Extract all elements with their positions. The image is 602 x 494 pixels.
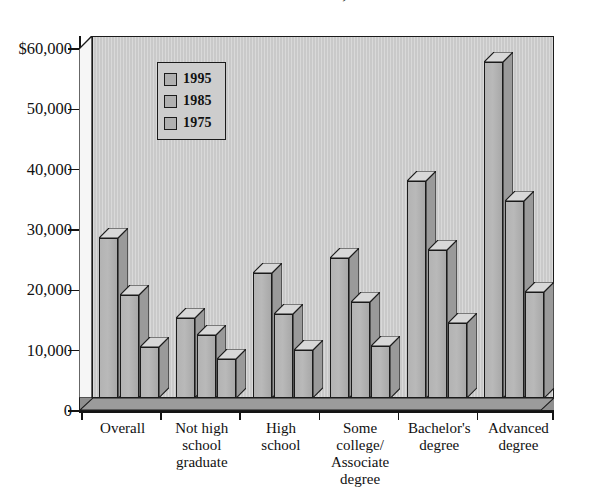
bar-front-face <box>294 350 313 398</box>
bar-front-face <box>253 273 272 398</box>
x-axis-label: Somecollege/Associatedegree <box>321 420 400 488</box>
x-axis-label-line: Advanced <box>479 420 558 437</box>
legend-swatch-1985 <box>164 95 177 108</box>
x-axis-label: Bachelor'sdegree <box>400 420 479 454</box>
bar-front-face <box>176 318 195 398</box>
bar-1995 <box>484 62 503 398</box>
y-axis-label: 10,000 <box>27 341 72 361</box>
x-axis-tick <box>81 411 83 420</box>
y-axis-label: 50,000 <box>27 99 72 119</box>
x-axis-label-line: Some <box>321 420 400 437</box>
x-axis-tick <box>239 411 241 420</box>
y-axis-label: 30,000 <box>27 220 72 240</box>
bar-front-face <box>525 292 544 398</box>
bar-front-face <box>217 359 236 398</box>
chart-root: Educational Attainment, 1975-1995 010,00… <box>0 0 602 494</box>
legend: 1995 1985 1975 <box>157 62 226 140</box>
x-axis-label-line: Overall <box>83 420 162 437</box>
legend-label-1985: 1985 <box>183 93 212 109</box>
x-axis-label-line: school <box>241 437 320 454</box>
bar-top-face <box>351 292 380 303</box>
bar-side-face <box>544 282 554 398</box>
x-axis-label-line: degree <box>400 437 479 454</box>
bar-front-face <box>197 335 216 398</box>
x-axis-label-line: college/ <box>321 437 400 454</box>
plot-left-depth-wall <box>79 36 93 398</box>
y-axis-label: 0 <box>64 401 72 421</box>
bar-front-face <box>428 250 447 398</box>
bar-top-face <box>525 282 554 293</box>
legend-item: 1985 <box>164 90 219 112</box>
bar-1995 <box>407 181 426 398</box>
bar-front-face <box>371 346 390 398</box>
bar-1985 <box>428 250 447 398</box>
bar-front-face <box>351 302 370 398</box>
bar-top-face <box>176 308 205 319</box>
bar-top-face <box>140 337 169 348</box>
bar-1985 <box>197 335 216 398</box>
bar-front-face <box>274 314 293 398</box>
x-axis-label-line: Bachelor's <box>400 420 479 437</box>
bar-1975 <box>371 346 390 398</box>
bar-front-face <box>505 201 524 398</box>
x-axis-label: Not highschoolgraduate <box>162 420 241 471</box>
bar-front-face <box>330 258 349 398</box>
bar-side-face <box>467 313 477 398</box>
bar-top-face <box>505 191 534 202</box>
y-axis-label: 20,000 <box>27 280 72 300</box>
x-axis-label: Highschool <box>241 420 320 454</box>
bar-front-face <box>120 295 139 398</box>
bar-front-face <box>140 347 159 398</box>
x-axis-label-line: Associate <box>321 454 400 471</box>
x-axis-label: Overall <box>83 420 162 437</box>
bar-top-face <box>217 349 246 360</box>
x-axis-label-line: school <box>162 437 241 454</box>
bar-1975 <box>448 323 467 398</box>
bar-top-face <box>294 340 323 351</box>
legend-swatch-1995 <box>164 73 177 86</box>
bar-1985 <box>274 314 293 398</box>
bar-top-face <box>428 240 457 251</box>
legend-item: 1995 <box>164 68 219 90</box>
bar-top-face <box>448 313 477 324</box>
x-axis-label-line: graduate <box>162 454 241 471</box>
bar-top-face <box>99 228 128 239</box>
bar-top-face <box>330 248 359 259</box>
bar-1995 <box>330 258 349 398</box>
bar-1995 <box>253 273 272 398</box>
x-axis-label-line: degree <box>321 471 400 488</box>
chart-title: Educational Attainment, 1975-1995 <box>0 0 602 3</box>
x-axis-label-line: High <box>241 420 320 437</box>
x-axis-line <box>79 411 554 413</box>
legend-label-1995: 1995 <box>183 71 212 87</box>
bar-1985 <box>351 302 370 398</box>
x-axis-tick <box>398 411 400 420</box>
bar-top-face <box>371 336 400 347</box>
x-axis-tick <box>319 411 321 420</box>
bar-1975 <box>217 359 236 398</box>
y-axis-label: 40,000 <box>27 160 72 180</box>
bar-top-face <box>197 325 226 336</box>
bar-top-face <box>120 285 149 296</box>
x-axis-label-line: degree <box>479 437 558 454</box>
bar-top-face <box>484 52 513 63</box>
bar-1975 <box>294 350 313 398</box>
bar-1995 <box>176 318 195 398</box>
bar-top-face <box>253 263 282 274</box>
x-axis-tick <box>477 411 479 420</box>
bar-1985 <box>505 201 524 398</box>
plot-area: 1995 1985 1975 <box>92 36 554 398</box>
bar-top-face <box>407 171 436 182</box>
legend-label-1975: 1975 <box>183 115 212 131</box>
bar-front-face <box>448 323 467 398</box>
x-axis-label: Advanceddegree <box>479 420 558 454</box>
bar-front-face <box>99 238 118 398</box>
legend-item: 1975 <box>164 112 219 134</box>
plot-floor <box>79 398 554 411</box>
x-axis-tick <box>552 411 554 420</box>
x-axis-label-line: Not high <box>162 420 241 437</box>
bar-front-face <box>407 181 426 398</box>
bar-1985 <box>120 295 139 398</box>
bar-1975 <box>525 292 544 398</box>
bar-front-face <box>484 62 503 398</box>
